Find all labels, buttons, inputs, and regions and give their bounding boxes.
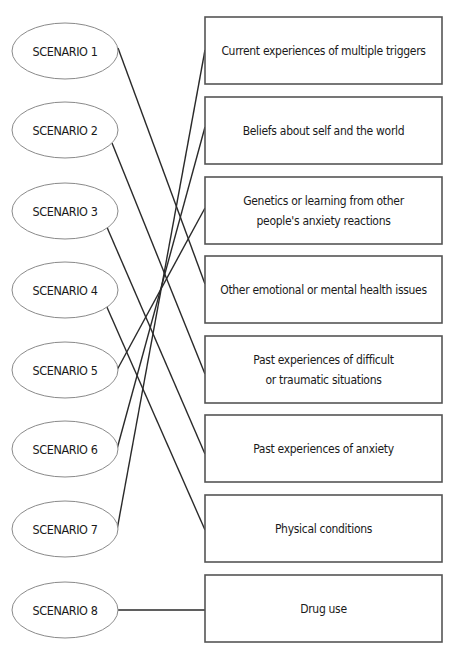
scenario-column: SCENARIO 1SCENARIO 2SCENARIO 3SCENARIO 4… xyxy=(12,23,118,638)
scenario-6: SCENARIO 6 xyxy=(12,421,118,477)
scenario-7: SCENARIO 7 xyxy=(12,501,118,557)
cause-box xyxy=(205,177,442,244)
cause-label: Drug use xyxy=(300,602,347,616)
cause-label: Past experiences of anxiety xyxy=(253,442,394,456)
cause-box xyxy=(205,336,442,403)
cause-label: Other emotional or mental health issues xyxy=(220,283,427,297)
scenario-3: SCENARIO 3 xyxy=(12,183,118,239)
scenario-label: SCENARIO 4 xyxy=(33,283,98,298)
cause-label: or traumatic situations xyxy=(265,373,382,387)
cause-column: Current experiences of multiple triggers… xyxy=(205,17,442,642)
scenario-label: SCENARIO 7 xyxy=(33,522,98,537)
cause-box-2: Beliefs about self and the world xyxy=(205,97,442,164)
scenario-2: SCENARIO 2 xyxy=(12,102,118,158)
scenario-matching-diagram: SCENARIO 1SCENARIO 2SCENARIO 3SCENARIO 4… xyxy=(0,0,451,651)
scenario-label: SCENARIO 8 xyxy=(33,603,98,618)
scenario-1: SCENARIO 1 xyxy=(12,23,118,79)
cause-label: Current experiences of multiple triggers xyxy=(221,44,426,58)
cause-box-1: Current experiences of multiple triggers xyxy=(205,17,442,84)
cause-box-7: Physical conditions xyxy=(205,495,442,562)
scenario-label: SCENARIO 1 xyxy=(33,44,98,59)
connector-scenario-7-to-cause-1 xyxy=(117,50,205,530)
cause-box-8: Drug use xyxy=(205,575,442,642)
cause-label: Beliefs about self and the world xyxy=(243,124,405,138)
cause-box-6: Past experiences of anxiety xyxy=(205,415,442,482)
scenario-4: SCENARIO 4 xyxy=(12,262,118,318)
cause-box-4: Other emotional or mental health issues xyxy=(205,256,442,323)
cause-label: Physical conditions xyxy=(275,522,373,536)
scenario-label: SCENARIO 5 xyxy=(33,363,98,378)
scenario-8: SCENARIO 8 xyxy=(12,582,118,638)
scenario-5: SCENARIO 5 xyxy=(12,342,118,398)
scenario-label: SCENARIO 3 xyxy=(33,204,98,219)
cause-label: Genetics or learning from other xyxy=(243,194,404,208)
connector-lines xyxy=(106,48,205,610)
scenario-label: SCENARIO 2 xyxy=(33,123,98,138)
connector-scenario-1-to-cause-4 xyxy=(118,48,205,284)
cause-label: Past experiences of difficult xyxy=(253,353,393,367)
scenario-label: SCENARIO 6 xyxy=(33,442,98,457)
cause-label: people's anxiety reactions xyxy=(256,214,391,228)
cause-box-5: Past experiences of difficultor traumati… xyxy=(205,336,442,403)
cause-box-3: Genetics or learning from otherpeople's … xyxy=(205,177,442,244)
